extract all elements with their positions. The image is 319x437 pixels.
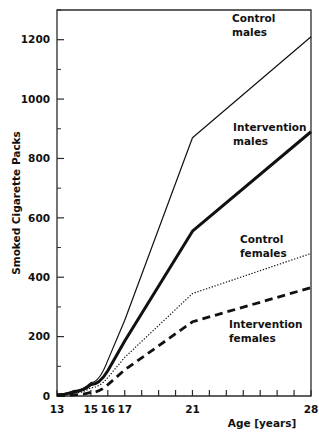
- series-label-intervention-males-line2: males: [233, 135, 268, 147]
- x-tick-label-28: 28: [304, 403, 319, 415]
- y-tick-label-1200: 1200: [21, 33, 50, 45]
- x-tick-label-15: 15: [84, 403, 99, 415]
- x-axis-tick-labels: 131516172128: [50, 403, 319, 415]
- series-label-control-females-line2: females: [240, 247, 287, 259]
- series-label-control-males: Control males: [232, 12, 275, 38]
- series-line-intervention-males: [57, 132, 311, 395]
- series-label-intervention-females-line1: Intervention: [229, 318, 302, 330]
- series-label-intervention-males-line1: Intervention: [233, 121, 306, 133]
- series-label-control-females-line1: Control: [240, 233, 283, 245]
- series-label-control-females: Control females: [240, 233, 287, 259]
- y-tick-label-800: 800: [28, 152, 50, 164]
- y-tick-label-200: 200: [28, 330, 50, 342]
- y-tick-label-600: 600: [28, 212, 50, 224]
- x-tick-label-16: 16: [100, 403, 115, 415]
- y-axis-title: Smoked Cigarette Packs: [10, 131, 22, 275]
- series-label-intervention-females-line2: females: [229, 332, 276, 344]
- x-tick-label-21: 21: [185, 403, 200, 415]
- y-axis-tick-labels: 020040060080010001200: [21, 33, 50, 401]
- y-axis-ticks: [57, 10, 64, 396]
- series-label-intervention-females: Intervention females: [229, 318, 302, 344]
- y-tick-label-0: 0: [43, 390, 50, 402]
- smoked-cigarette-packs-line-chart: 020040060080010001200 131516172128 Smoke…: [0, 0, 319, 437]
- series-label-control-males-line2: males: [232, 26, 267, 38]
- series-label-control-males-line1: Control: [232, 12, 275, 24]
- x-tick-label-13: 13: [50, 403, 65, 415]
- x-tick-label-17: 17: [117, 403, 132, 415]
- y-tick-label-400: 400: [28, 271, 50, 283]
- x-axis-title: Age [years]: [228, 417, 297, 429]
- x-axis-ticks: [57, 390, 311, 396]
- y-tick-label-1000: 1000: [21, 93, 50, 105]
- chart-figure: 020040060080010001200 131516172128 Smoke…: [0, 0, 319, 437]
